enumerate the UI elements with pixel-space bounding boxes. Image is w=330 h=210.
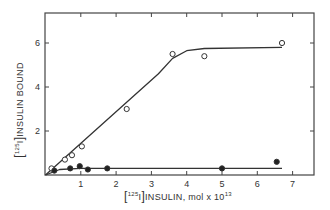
y-tick-label: 2	[35, 126, 40, 136]
filled-circle-marker	[85, 167, 90, 172]
data-points	[49, 40, 285, 173]
fit-curve-line	[46, 47, 283, 175]
open-circle-marker	[202, 54, 207, 59]
x-isotope-sup: 125	[128, 191, 139, 197]
open-circle-marker	[79, 144, 84, 149]
x-tick-label: 3	[149, 179, 154, 189]
axis-ticks: 1234567246	[35, 13, 314, 189]
filled-circle-marker	[52, 168, 57, 173]
filled-circle-marker	[77, 164, 82, 169]
insulin-binding-chart: 1234567246 [125I]INSULIN BOUND [125I]INS…	[0, 0, 330, 210]
y-label-text: INSULIN BOUND	[15, 62, 25, 137]
filled-circle-marker	[105, 166, 110, 171]
open-circle-marker	[69, 153, 74, 158]
x-exponent: 13	[225, 191, 233, 197]
filled-circle-marker	[219, 166, 224, 171]
y-axis-label: [125I]INSULIN BOUND	[12, 62, 26, 158]
y-isotope-sup: 125	[14, 143, 20, 154]
filled-circle-marker	[274, 159, 279, 164]
x-tick-label: 6	[255, 179, 260, 189]
x-axis-label: [125I]INSULIN, mol x 1013	[124, 189, 232, 203]
svg-text:[125I]INSULIN, mol x 1013: [125I]INSULIN, mol x 1013	[124, 189, 232, 203]
open-circle-marker	[124, 106, 129, 111]
x-label-text: INSULIN, mol x 10	[145, 192, 225, 202]
open-circle-marker	[62, 157, 67, 162]
x-tick-label: 2	[114, 179, 119, 189]
y-tick-label: 6	[35, 38, 40, 48]
fit-curves	[46, 47, 283, 175]
x-tick-label: 1	[78, 179, 83, 189]
plot-border	[45, 13, 314, 175]
open-circle-marker	[279, 40, 284, 45]
open-circle-marker	[170, 51, 175, 56]
x-tick-label: 7	[290, 179, 295, 189]
plot-frame	[45, 13, 314, 175]
y-tick-label: 4	[35, 82, 40, 92]
x-tick-label: 4	[184, 179, 189, 189]
filled-circle-marker	[68, 166, 73, 171]
x-tick-label: 5	[219, 179, 224, 189]
svg-text:[125I]INSULIN BOUND: [125I]INSULIN BOUND	[12, 62, 26, 158]
